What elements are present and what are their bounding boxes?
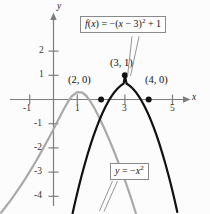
x-tick-label-5: 5: [170, 104, 175, 114]
callout-f-minus3: − 3): [123, 18, 142, 29]
point-root-2-0: [98, 97, 104, 103]
y-tick-label-1: 1: [39, 70, 44, 80]
x-tick-label--1: -1: [23, 104, 31, 114]
point-root-4-0: [146, 97, 152, 103]
annotation-root-left: (2, 0): [68, 75, 91, 86]
x-axis-label: x: [192, 93, 196, 103]
y-tick-label--4: -4: [34, 191, 42, 201]
callout-f-equation: f(x) = −(x − 3)2 + 1: [80, 16, 166, 33]
leader-lines-g-callout: [100, 181, 118, 212]
annotation-vertex: (3, 1): [110, 58, 133, 69]
annotation-root-right: (4, 0): [145, 75, 168, 86]
graph-figure: x y -1 1 3 5 2 1 -1 -2 -3 -4 (3, 1) (2, …: [0, 0, 210, 214]
callout-g-equation: y = −x2: [110, 163, 149, 180]
y-tick-label-2: 2: [39, 46, 44, 56]
callout-f-eq: = −(: [99, 18, 119, 29]
axes-group: [10, 13, 191, 207]
x-tick-label-1: 1: [75, 104, 80, 114]
callout-g-eq: = −: [119, 165, 135, 176]
callout-f-plus1: + 1: [145, 18, 161, 29]
x-axis-arrow: [183, 96, 191, 102]
point-vertex-3-1: [122, 72, 128, 78]
x-tick-label-3: 3: [122, 104, 127, 114]
y-axis-label: y: [57, 2, 61, 12]
y-tick-label--1: -1: [34, 119, 42, 129]
y-tick-label--3: -3: [34, 167, 42, 177]
curve-gray-y-equals-neg-x-squared: [1, 92, 136, 213]
callout-g-exponent: 2: [140, 164, 144, 172]
y-axis-arrow: [50, 13, 56, 21]
y-tick-label--2: -2: [34, 143, 42, 153]
